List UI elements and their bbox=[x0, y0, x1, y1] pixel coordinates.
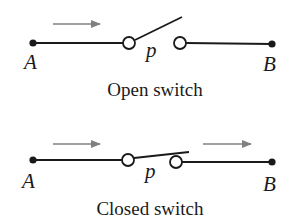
closed-switch-diagram: A p B Closed switch bbox=[20, 144, 276, 219]
terminal-b-label: B bbox=[263, 172, 276, 196]
terminal-b-dot bbox=[268, 158, 275, 165]
terminal-b-dot bbox=[268, 40, 275, 47]
terminal-b-label: B bbox=[263, 52, 276, 76]
wire-right bbox=[186, 43, 272, 44]
switch-contact-left bbox=[123, 37, 135, 49]
switch-lever-open bbox=[135, 17, 182, 40]
open-switch-caption: Open switch bbox=[107, 79, 203, 100]
closed-switch-caption: Closed switch bbox=[96, 198, 204, 219]
diagram-svg: A p B Open switch A p B Closed switch bbox=[0, 0, 295, 219]
switch-p-label: p bbox=[143, 159, 156, 183]
switch-p-label: p bbox=[144, 38, 157, 62]
switch-contact-right bbox=[170, 156, 182, 168]
open-switch-diagram: A p B Open switch bbox=[22, 17, 276, 100]
switch-contact-left bbox=[122, 154, 134, 166]
switch-diagram: A p B Open switch A p B Closed switch bbox=[0, 0, 295, 219]
terminal-a-label: A bbox=[22, 50, 37, 74]
terminal-a-label: A bbox=[20, 169, 35, 193]
switch-contact-right bbox=[174, 37, 186, 49]
